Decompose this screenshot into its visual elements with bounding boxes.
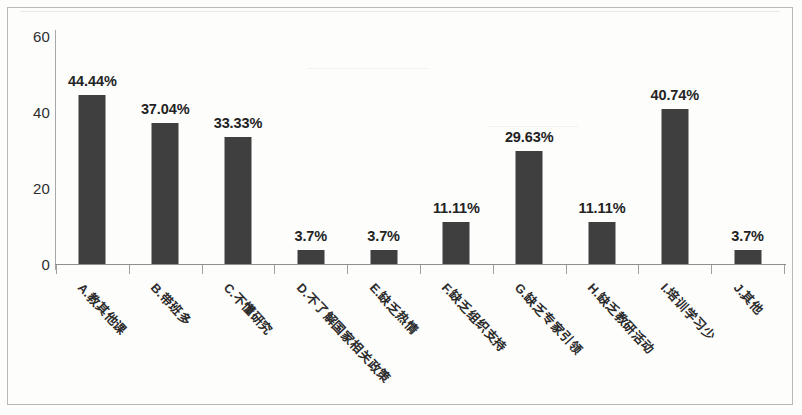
y-tick-label: 40 xyxy=(12,104,50,121)
chart-frame: 60 40 20 0 44.44%37.04%33.33%3.7%3.7%11.… xyxy=(7,7,793,405)
bar xyxy=(224,137,251,264)
bar-group: 3.7% xyxy=(711,36,784,264)
x-axis-label-slot: G.缺乏专家引领 xyxy=(493,274,566,394)
x-axis-label-slot: F.缺乏组织支持 xyxy=(420,274,493,394)
x-axis-tick xyxy=(202,265,203,274)
x-axis-tick xyxy=(420,265,421,274)
bar xyxy=(588,222,615,264)
x-axis-label: B.带班多 xyxy=(147,278,196,329)
x-axis-tick xyxy=(711,265,712,274)
x-axis-label-slot: A.教其他课 xyxy=(56,274,129,394)
bar-group: 29.63% xyxy=(493,36,566,264)
plot-area: 44.44%37.04%33.33%3.7%3.7%11.11%29.63%11… xyxy=(56,36,784,264)
y-axis-tick-labels: 60 40 20 0 xyxy=(8,8,50,308)
bar xyxy=(734,250,761,264)
x-axis-label-slot: E.缺乏热情 xyxy=(347,274,420,394)
x-axis-label-slot: J.其他 xyxy=(711,274,784,394)
x-axis-tick xyxy=(784,265,785,274)
bar xyxy=(297,250,324,264)
bar xyxy=(152,123,179,264)
bar-value-label: 11.11% xyxy=(433,200,480,216)
bar-value-label: 29.63% xyxy=(505,129,554,145)
bar-group: 11.11% xyxy=(420,36,493,264)
bar-value-label: 44.44% xyxy=(68,73,117,89)
bar-group: 40.74% xyxy=(638,36,711,264)
x-axis-tick xyxy=(638,265,639,274)
bar-group: 37.04% xyxy=(129,36,202,264)
bar xyxy=(370,250,397,264)
x-axis-label: C.不懂研究 xyxy=(220,278,278,339)
bar-value-label: 33.33% xyxy=(214,115,263,131)
x-axis-label-slot: B.带班多 xyxy=(129,274,202,394)
bar xyxy=(443,222,470,264)
x-axis-tick xyxy=(493,265,494,274)
scan-artifact xyxy=(20,11,780,12)
bar xyxy=(79,95,106,264)
y-tick-label: 0 xyxy=(12,256,50,273)
bar xyxy=(661,109,688,264)
bar-value-label: 3.7% xyxy=(294,228,327,244)
y-tick-label: 60 xyxy=(12,28,50,45)
bar-group: 3.7% xyxy=(274,36,347,264)
x-axis-label: A.教其他课 xyxy=(74,278,132,339)
x-axis-label-slot: C.不懂研究 xyxy=(202,274,275,394)
x-axis-label: J.其他 xyxy=(730,278,769,318)
x-axis-label-slot: I.培训学习少 xyxy=(638,274,711,394)
bar-group: 44.44% xyxy=(56,36,129,264)
x-axis-labels: A.教其他课B.带班多C.不懂研究D.不了解国家相关政策E.缺乏热情F.缺乏组织… xyxy=(56,274,784,399)
bar-value-label: 40.74% xyxy=(650,87,699,103)
x-axis-tick xyxy=(56,265,57,274)
bar xyxy=(516,151,543,264)
x-axis-tick xyxy=(347,265,348,274)
bar-value-label: 37.04% xyxy=(141,101,190,117)
bar-group: 33.33% xyxy=(202,36,275,264)
bar-group: 3.7% xyxy=(347,36,420,264)
y-tick-label: 20 xyxy=(12,180,50,197)
bar-value-label: 3.7% xyxy=(367,228,400,244)
x-axis-label-slot: H.缺乏教研活动 xyxy=(566,274,639,394)
chart-page: 60 40 20 0 44.44%37.04%33.33%3.7%3.7%11.… xyxy=(0,0,802,415)
x-axis-tick xyxy=(129,265,130,274)
x-axis-tick xyxy=(566,265,567,274)
x-axis-tick xyxy=(274,265,275,274)
bar-group: 11.11% xyxy=(566,36,639,264)
bar-value-label: 11.11% xyxy=(578,200,625,216)
x-axis-label: E.缺乏热情 xyxy=(366,278,424,338)
bar-value-label: 3.7% xyxy=(731,228,764,244)
x-axis-label-slot: D.不了解国家相关政策 xyxy=(274,274,347,394)
